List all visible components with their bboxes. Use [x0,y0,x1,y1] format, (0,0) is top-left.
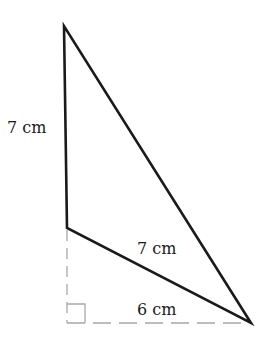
lower-side-length-label: 7 cm [137,241,176,257]
triangle-figure: 7 cm 7 cm 6 cm [0,0,257,340]
right-angle-marker [67,304,85,323]
triangle-outline [64,26,251,323]
left-side-length-label: 7 cm [7,120,46,136]
base-extension-length-label: 6 cm [137,302,176,318]
triangle-diagram-svg [0,0,257,340]
